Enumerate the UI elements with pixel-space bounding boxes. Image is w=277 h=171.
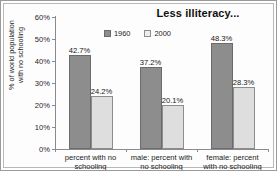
y-axis-tick-label: 50% xyxy=(35,35,50,44)
y-axis-tick-label: 10% xyxy=(35,123,50,132)
x-axis-category-label-line: male: percent with xyxy=(126,153,197,162)
bar-value-label: 42.7% xyxy=(69,46,91,55)
bar-value-label: 48.3% xyxy=(211,34,233,43)
chart-plot-frame: Less illiteracy... % of world population… xyxy=(3,3,274,168)
x-axis-category-label-line: no schooling xyxy=(126,162,197,171)
bar-value-label: 24.2% xyxy=(91,87,113,96)
bar-1960-group-1: 42.7% xyxy=(69,55,91,149)
y-axis-tick-mark xyxy=(52,39,55,40)
bar-2000-group-3: 28.3% xyxy=(233,87,255,149)
x-axis-category-label: male: percent withno schooling xyxy=(126,153,197,171)
y-axis-title: % of world population with no schooling xyxy=(7,7,37,103)
x-axis-line xyxy=(55,149,268,150)
bar-value-label: 37.2% xyxy=(140,58,162,67)
y-axis-tick-mark xyxy=(52,127,55,128)
bar-1960-group-2: 37.2% xyxy=(140,67,162,149)
y-axis-tick-label: 40% xyxy=(35,57,50,66)
plot-area: 0%10%20%30%40%50%60% 42.7%24.2%37.2%20.1… xyxy=(55,17,268,149)
x-axis-tick-mark xyxy=(197,149,198,152)
y-axis-tick-mark xyxy=(52,17,55,18)
y-axis-tick-mark xyxy=(52,105,55,106)
bar-value-label: 28.3% xyxy=(233,78,255,87)
y-axis-tick-label: 30% xyxy=(35,79,50,88)
bar-1960-group-3: 48.3% xyxy=(211,43,233,149)
y-axis-tick-mark xyxy=(52,61,55,62)
bar-2000-group-1: 24.2% xyxy=(91,96,113,149)
y-axis-tick-label: 60% xyxy=(35,13,50,22)
y-axis-title-line-2: with no schooling xyxy=(16,7,25,103)
x-axis-category-label-line: schooling xyxy=(55,162,126,171)
x-axis-tick-mark xyxy=(55,149,56,152)
x-axis-category-label: percent with noschooling xyxy=(55,153,126,171)
x-axis-category-label-line: percent with no xyxy=(55,153,126,162)
x-axis-category-label-line: female: percent xyxy=(197,153,268,162)
y-axis-title-line-1: % of world population xyxy=(7,7,16,103)
x-axis-category-label: female: percentwith no schooling xyxy=(197,153,268,171)
y-axis-tick-label: 0% xyxy=(39,145,50,154)
y-axis-tick-label: 20% xyxy=(35,101,50,110)
x-axis-tick-mark xyxy=(126,149,127,152)
x-axis-tick-mark xyxy=(268,149,269,152)
chart-figure: Less illiteracy... % of world population… xyxy=(0,0,277,171)
bar-2000-group-2: 20.1% xyxy=(162,105,184,149)
bar-value-label: 20.1% xyxy=(162,96,184,105)
y-axis-tick-mark xyxy=(52,83,55,84)
x-axis-category-label-line: with no schooling xyxy=(197,162,268,171)
